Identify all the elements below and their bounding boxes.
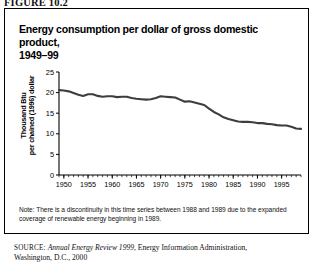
source-prefix: SOURCE: <box>14 244 46 252</box>
y-tick-label: 15 <box>46 109 54 118</box>
y-tick-label: 20 <box>46 88 54 97</box>
x-tick-label-group: 1950195519601965197019751980198519901995 <box>56 180 290 189</box>
x-tick-label: 1975 <box>177 180 193 189</box>
line-chart-svg: 0510152025 19501955196019651970197519801… <box>5 9 310 235</box>
figure-container: FIGURE 10.2 Energy consumption per dolla… <box>0 0 319 273</box>
x-tick-label: 1955 <box>80 180 96 189</box>
source-citation: SOURCE: Annual Energy Review 1999, Energ… <box>14 243 264 263</box>
x-tick-label: 1990 <box>249 180 265 189</box>
source-title: Annual Energy Review 1999 <box>48 243 134 252</box>
plot-area: Thousand Btu per chained (1996) dollar 0… <box>5 9 310 235</box>
x-tick-label: 1985 <box>225 180 241 189</box>
x-tick-label: 1965 <box>128 180 144 189</box>
figure-label: FIGURE 10.2 <box>4 0 68 8</box>
x-tick-label: 1970 <box>153 180 169 189</box>
y-tick-label: 25 <box>46 68 54 77</box>
data-series-line <box>59 90 301 129</box>
y-tick-label-group: 0510152025 <box>46 68 54 180</box>
y-tick-label: 0 <box>50 171 54 180</box>
y-tick-label: 10 <box>46 129 54 138</box>
x-tick-label: 1995 <box>274 180 290 189</box>
chart-note: Note: There is a discontinuity in this t… <box>19 205 301 224</box>
x-tick-label: 1950 <box>56 180 72 189</box>
figure-box: Energy consumption per dollar of gross d… <box>4 8 309 234</box>
y-tick-label: 5 <box>50 150 54 159</box>
x-tick-label: 1980 <box>201 180 217 189</box>
x-tick-label: 1960 <box>104 180 120 189</box>
